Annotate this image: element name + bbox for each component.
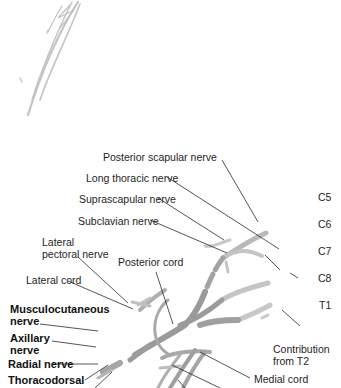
label-radial-nerve: Radial nerve: [8, 358, 73, 370]
label-thoracodorsal: Thoracodorsal: [8, 374, 84, 386]
label-posterior-scapular-nerve: Posterior scapular nerve: [103, 151, 217, 163]
label-suprascapular-nerve: Suprascapular nerve: [79, 193, 176, 205]
label-contribution-from-t2: Contribution from T2: [273, 343, 330, 367]
label-medial-cord: Medial cord: [254, 373, 308, 385]
label-root-c6: C6: [318, 218, 331, 230]
label-long-thoracic-nerve: Long thoracic nerve: [86, 172, 178, 184]
label-root-c8: C8: [318, 272, 331, 284]
label-root-t1: T1: [319, 299, 331, 311]
brachial-plexus-diagram: Posterior scapular nerve Long thoracic n…: [0, 0, 341, 388]
label-subclavian-nerve: Subclavian nerve: [78, 215, 159, 227]
label-axillary-nerve: Axillary nerve: [10, 332, 50, 356]
label-lateral-cord: Lateral cord: [26, 274, 81, 286]
label-lateral-pectoral-nerve: Lateral pectoral nerve: [42, 236, 109, 260]
label-root-c7: C7: [318, 245, 331, 257]
label-posterior-cord: Posterior cord: [118, 256, 183, 268]
label-root-c5: C5: [318, 191, 331, 203]
label-musculocutaneous-nerve: Musculocutaneous nerve: [10, 303, 110, 327]
sketch-strokes: [20, 2, 80, 115]
